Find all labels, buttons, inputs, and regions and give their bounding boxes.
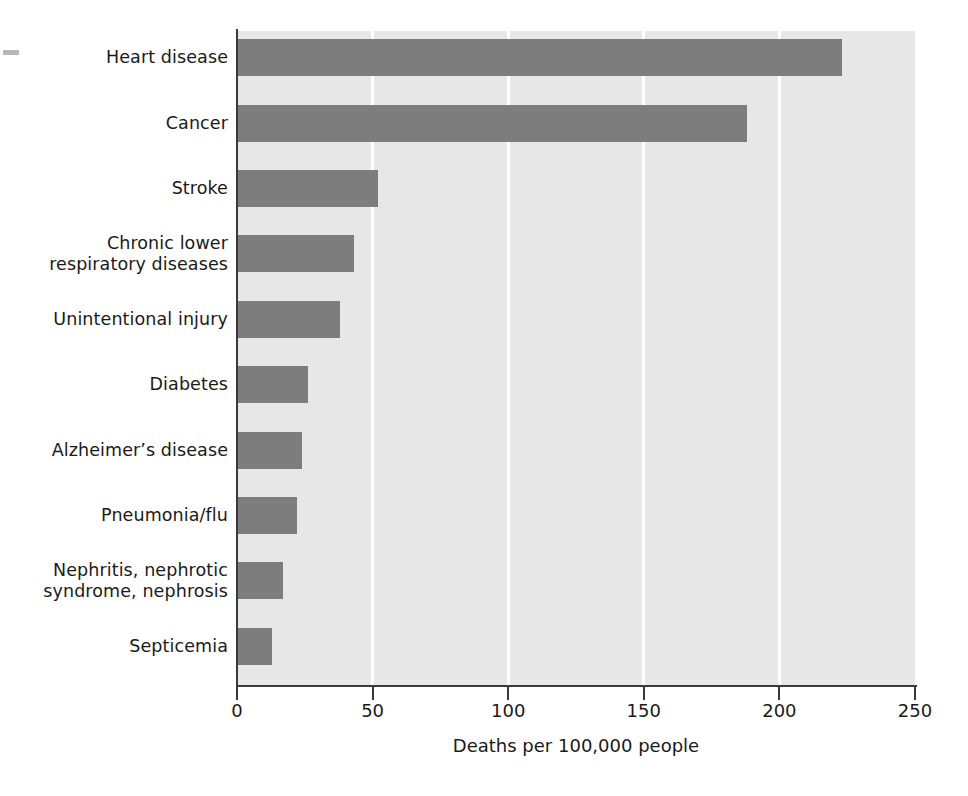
category-label: Nephritis, nephrotic syndrome, nephrosis <box>0 560 228 602</box>
x-tick <box>372 687 374 700</box>
x-axis-title: Deaths per 100,000 people <box>237 735 915 756</box>
bar <box>237 39 842 76</box>
x-tick-label: 150 <box>604 700 684 721</box>
bar <box>237 105 747 142</box>
x-tick <box>507 687 509 700</box>
category-label: Chronic lower respiratory diseases <box>0 233 228 275</box>
x-axis-line <box>236 685 917 687</box>
bar <box>237 170 378 207</box>
bar <box>237 432 302 469</box>
x-tick <box>914 687 916 700</box>
x-tick-label: 50 <box>333 700 413 721</box>
bar <box>237 628 272 665</box>
bar <box>237 235 354 272</box>
x-tick <box>236 687 238 700</box>
category-label: Diabetes <box>0 374 228 395</box>
category-label: Stroke <box>0 178 228 199</box>
x-tick-label: 200 <box>739 700 819 721</box>
x-tick <box>778 687 780 700</box>
bar-chart-figure: Heart diseaseCancerStrokeChronic lower r… <box>0 0 968 796</box>
x-tick-label: 0 <box>197 700 277 721</box>
category-label: Septicemia <box>0 636 228 657</box>
category-label: Heart disease <box>0 47 228 68</box>
bar <box>237 497 297 534</box>
bar-series <box>237 31 915 685</box>
category-axis: Heart diseaseCancerStrokeChronic lower r… <box>0 31 228 685</box>
plot-area <box>237 31 915 685</box>
x-tick-label: 100 <box>468 700 548 721</box>
category-label: Unintentional injury <box>0 309 228 330</box>
category-label: Pneumonia/flu <box>0 505 228 526</box>
category-label: Alzheimer’s disease <box>0 440 228 461</box>
bar <box>237 301 340 338</box>
y-axis-line <box>236 29 238 687</box>
bar <box>237 562 283 599</box>
x-tick <box>643 687 645 700</box>
category-label: Cancer <box>0 113 228 134</box>
bar <box>237 366 308 403</box>
x-tick-label: 250 <box>875 700 955 721</box>
